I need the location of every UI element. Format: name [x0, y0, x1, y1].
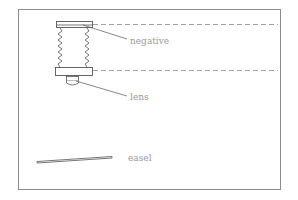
enlarger-diagram: negative lens easel — [0, 0, 298, 200]
easel — [37, 157, 112, 164]
lens-label: lens — [130, 92, 149, 102]
easel-label: easel — [128, 153, 152, 163]
negative-label: negative — [130, 36, 169, 46]
lens-leader-line — [76, 81, 127, 96]
bellows — [58, 28, 89, 67]
negative-leader-line — [83, 25, 127, 39]
lens — [67, 77, 79, 86]
diagram-svg — [0, 0, 298, 200]
lens-board — [56, 68, 93, 76]
